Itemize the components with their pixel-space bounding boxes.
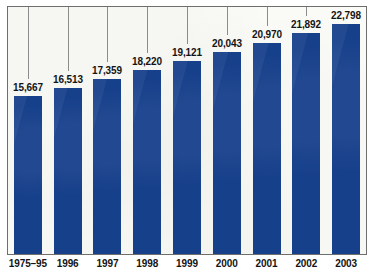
leader-line-2001 <box>267 7 268 26</box>
bar-1998[interactable] <box>133 70 161 254</box>
leader-line-2002 <box>306 7 307 16</box>
bar-2001[interactable] <box>253 43 281 254</box>
plot-area: 15,66716,51317,35918,22019,12120,04320,9… <box>7 6 367 255</box>
value-label-2003: 22,798 <box>322 10 367 21</box>
x-label-2003: 2003 <box>317 258 374 269</box>
leader-line-2000 <box>227 7 228 35</box>
value-label-2001: 20,970 <box>243 29 291 40</box>
bar-2002[interactable] <box>292 33 320 254</box>
bar-1997[interactable] <box>93 79 121 254</box>
bar-1975-95[interactable] <box>14 96 42 254</box>
bar-chart-figure: 15,66716,51317,35918,22019,12120,04320,9… <box>0 0 374 276</box>
leader-line-1998 <box>147 7 148 53</box>
leader-line-1997 <box>107 7 108 62</box>
leader-line-1996 <box>68 7 69 71</box>
bar-1996[interactable] <box>54 88 82 254</box>
leader-line-1975-95 <box>28 7 29 79</box>
leader-line-1999 <box>187 7 188 44</box>
bar-1999[interactable] <box>173 61 201 254</box>
x-axis-labels: 1975–9519961997199819992000200120022003 <box>7 258 367 274</box>
bar-2000[interactable] <box>213 52 241 254</box>
bar-2003[interactable] <box>332 24 360 254</box>
